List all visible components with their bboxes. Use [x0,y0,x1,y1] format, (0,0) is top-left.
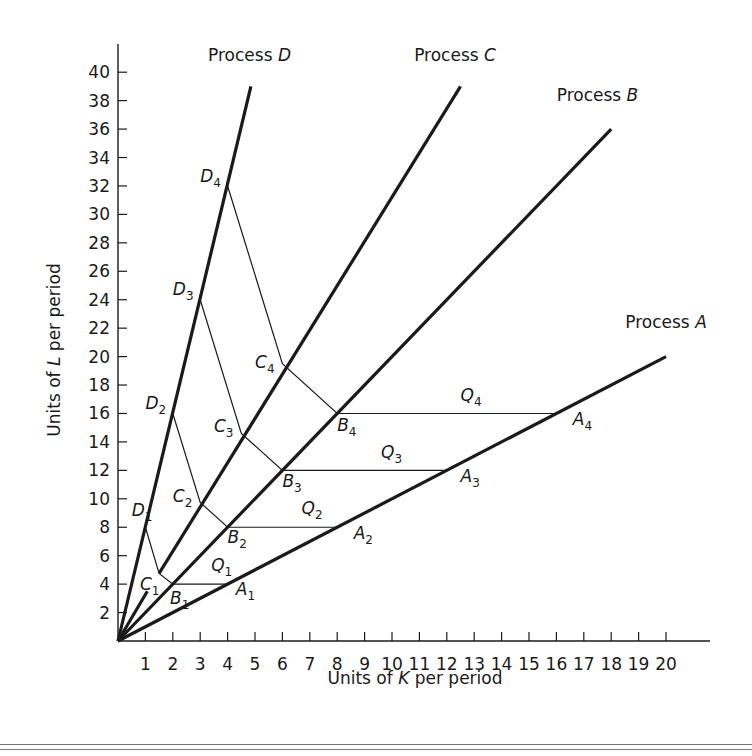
y-tick-label: 14 [88,432,110,452]
y-tick-label: 2 [99,603,110,623]
point-label-b3: B3 [282,471,301,495]
y-tick-label: 24 [88,290,110,310]
point-label-c1: C1 [140,574,160,598]
point-label-d3: D3 [173,279,194,303]
y-tick-label: 18 [88,375,110,395]
point-label-a3: A3 [460,466,480,490]
point-label-c3: C3 [214,416,234,440]
point-label-b4: B4 [337,415,356,439]
y-tick-label: 34 [88,148,110,168]
isoquant-label-q3: Q3 [381,442,402,466]
x-tick-label: 15 [518,654,540,674]
process-c-label: Process C [414,45,496,65]
process-b-ray [118,129,611,641]
x-axis-title: Units of K per period [327,668,502,688]
isoquant-chart: 1234567891011121314151617181920246810121… [0,0,752,756]
point-label-a2: A2 [353,523,373,547]
isoquant-label-q2: Q2 [302,498,323,522]
y-tick-label: 38 [88,91,110,111]
isoquant-lines [145,186,556,584]
x-tick-label: 17 [573,654,595,674]
point-label-c4: C4 [255,352,275,376]
x-tick-label: 2 [167,654,178,674]
y-axis-title: Units of L per period [44,263,64,436]
y-tick-label: 10 [88,489,110,509]
process-d-ray [118,86,251,641]
point-label-b2: B2 [228,527,247,551]
x-tick-label: 7 [304,654,315,674]
y-tick-label: 22 [88,318,110,338]
y-tick-label: 6 [99,546,110,566]
point-label-d4: D4 [200,166,221,190]
x-tick-label: 16 [546,654,568,674]
process-a-ray [118,357,666,641]
y-tick-label: 12 [88,460,110,480]
point-label-d2: D2 [145,393,166,417]
x-tick-label: 1 [140,654,151,674]
y-tick-label: 8 [99,517,110,537]
footer-rule-bottom [0,749,752,750]
y-tick-label: 20 [88,347,110,367]
process-b-label: Process B [557,85,639,105]
axes: 1234567891011121314151617181920246810121… [88,44,710,674]
point-label-a4: A4 [572,409,592,433]
x-tick-label: 19 [628,654,650,674]
y-tick-label: 32 [88,176,110,196]
point-label-c2: C2 [173,486,193,510]
x-tick-label: 6 [277,654,288,674]
isoquant-label-q1: Q1 [211,555,232,579]
x-tick-label: 4 [222,654,233,674]
y-tick-label: 4 [99,574,110,594]
isoquant-q4 [228,186,557,414]
y-tick-label: 36 [88,119,110,139]
isoquant-label-q4: Q4 [461,385,482,409]
process-a-label: Process A [625,312,707,332]
y-tick-label: 16 [88,403,110,423]
x-tick-label: 20 [655,654,677,674]
y-tick-label: 40 [88,62,110,82]
x-tick-label: 3 [195,654,206,674]
x-tick-label: 18 [600,654,622,674]
process-d-label: Process D [208,45,291,65]
y-tick-label: 26 [88,261,110,281]
y-tick-label: 28 [88,233,110,253]
y-tick-label: 30 [88,204,110,224]
footer-rule-top [0,744,752,745]
point-label-a1: A1 [235,579,255,603]
x-tick-label: 5 [250,654,261,674]
